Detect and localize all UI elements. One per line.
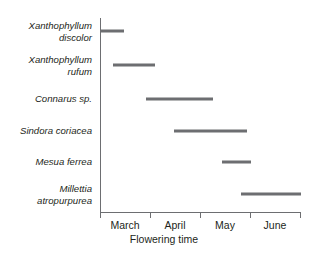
category-label-connarus-sp: Connarus sp. [35,93,92,105]
x-axis-tick-1 [100,213,101,218]
x-axis-tick-4 [250,213,251,218]
x-axis-tick-2 [150,213,151,218]
y-axis-line [100,18,101,213]
bar-xanthophyllum-rufum [113,64,155,67]
x-axis-tick-5 [300,213,301,218]
x-tick-label-april: April [164,219,185,231]
x-tick-label-may: May [215,219,235,231]
category-label-millettia-atropurpurea: Millettia atropurpurea [37,183,92,206]
bar-millettia-atropurpurea [241,193,301,196]
category-label-xanthophyllum-rufum: Xanthophyllum rufum [29,54,92,77]
category-label-mesua-ferrea: Mesua ferrea [35,156,92,168]
bar-xanthophyllum-discolor [101,30,124,33]
category-label-sindora-coriacea: Sindora coriacea [20,125,92,137]
bar-sindora-coriacea [174,130,247,133]
flowering-time-chart: Xanthophyllum discolor Xanthophyllum ruf… [0,0,314,254]
category-label-xanthophyllum-discolor: Xanthophyllum discolor [29,20,92,43]
x-tick-label-march: March [110,219,139,231]
x-axis-title-text: Flowering time [130,233,198,245]
bar-connarus-sp [146,98,213,101]
x-axis-title: Flowering time [0,233,314,245]
bar-mesua-ferrea [222,161,251,164]
x-axis-tick-3 [200,213,201,218]
x-tick-label-june: June [264,219,287,231]
